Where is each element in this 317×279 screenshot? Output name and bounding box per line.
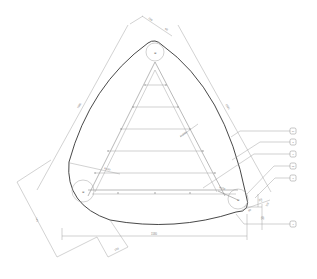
joint-dot: [120, 128, 121, 129]
dim-ext-bottom-offset: [110, 220, 128, 247]
dim-text-right-small-2: 100: [264, 201, 270, 207]
dim-text-right-side: 1580: [225, 103, 232, 110]
joint-dot: [202, 150, 203, 151]
dim-text-diagonal-note: R1500: [179, 130, 188, 138]
corner-mark-right: ⊕: [237, 199, 240, 202]
dim-text-left-side: 1580: [76, 102, 83, 109]
callout-leaders: [203, 131, 290, 224]
joint-dot: [144, 84, 145, 85]
leader: [255, 178, 290, 198]
joint-dot: [214, 172, 215, 173]
callout-6: 7: [290, 221, 296, 227]
dim-text-right-small-1: 25: [259, 198, 263, 201]
dim-line-left-side: [37, 25, 128, 190]
joint-dot: [177, 106, 178, 107]
dim-text-bottom-offset: 150: [114, 246, 120, 252]
dim-text-bottom-overall: 1580: [151, 232, 157, 236]
leader: [247, 166, 290, 194]
dim-text-right-small-4: 30: [261, 216, 265, 219]
joint-dot: [107, 150, 108, 151]
joint-marks: [94, 84, 215, 193]
technical-drawing: 10 5 6 12 8 7 ⊕ ⊕ ⊕ 250 60 1580 1580 740…: [0, 0, 317, 279]
dim-text-right-small-3: 60: [247, 207, 252, 212]
dim-line-top-left-ext: [130, 16, 143, 24]
callout-1: 10: [290, 128, 296, 134]
callout-5: 8: [290, 175, 296, 181]
corner-mark-top: ⊕: [154, 52, 157, 55]
joint-dot: [189, 192, 190, 193]
joint-dot: [132, 106, 133, 107]
dim-text-left-lower: 740: [34, 217, 40, 223]
callout-2: 5: [290, 139, 296, 145]
dim-line-right-side: [178, 25, 271, 192]
callout-4: 12: [290, 163, 296, 169]
joint-dot: [94, 172, 95, 173]
joint-dot: [117, 192, 118, 193]
dim-text-left-note: R450: [104, 166, 111, 171]
dim-text-top-width: 250: [148, 16, 154, 22]
dim-line-bottom-offset: [97, 237, 108, 257]
joint-dot: [165, 84, 166, 85]
inner-triangle-left-rail-inner: [95, 70, 155, 192]
leader: [203, 154, 290, 188]
corner-mark-left: ⊕: [82, 191, 85, 194]
dim-ext-left-lower: [17, 160, 51, 182]
horizontal-ribs: [95, 85, 215, 173]
callout-3: 6: [290, 151, 296, 157]
leader: [232, 142, 290, 160]
joint-dot: [154, 192, 155, 193]
dim-ext-left-lower-2: [57, 237, 97, 257]
inner-triangle-right-rail-inner: [155, 70, 217, 192]
